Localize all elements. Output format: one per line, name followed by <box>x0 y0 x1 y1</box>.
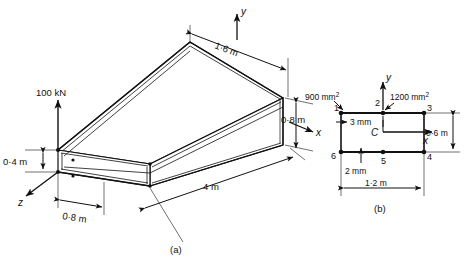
caption-a: (a) <box>170 244 182 255</box>
y-axis-label-a: y <box>240 6 247 17</box>
boom-4 <box>422 150 427 155</box>
dim-tip-width-label: 1·6 m <box>213 40 240 59</box>
dim-root-depth <box>25 150 58 172</box>
boom-6 <box>339 150 344 155</box>
boom-1 <box>339 111 344 116</box>
thickness-bottom-label: 2 mm <box>345 166 366 176</box>
thickness-top-label: 3 mm <box>350 117 371 127</box>
dim-section-height-label: 0·6 m <box>426 128 448 138</box>
panel-a-beam: 100 kN y x z 0·4 m <box>3 6 322 255</box>
dim-tip-depth-label: 0·8 m <box>281 114 305 125</box>
area-left-label: 900 mm2 <box>305 91 340 103</box>
dim-section-width-label: 1·2 m <box>365 178 387 188</box>
dim-root-width-label: 0·8 m <box>62 210 88 225</box>
boom-2 <box>381 111 386 116</box>
z-axis-arrow-a <box>26 172 58 196</box>
dim-length-label: 4 m <box>203 181 219 192</box>
panel-b-section: 1 2 3 4 5 6 900 mm2 1200 mm2 y <box>305 72 460 214</box>
boom-label-4: 4 <box>427 152 432 162</box>
x-axis-label-a: x <box>315 127 322 138</box>
load-label: 100 kN <box>36 87 66 98</box>
dim-root-depth-label: 0·4 m <box>3 156 27 167</box>
engineering-figure: 100 kN y x z 0·4 m <box>0 0 470 261</box>
dim-root-width <box>58 174 104 215</box>
area-right-label: 1200 mm2 <box>390 91 429 103</box>
y-axis-label-b: y <box>385 72 392 83</box>
caption-b: (b) <box>374 203 386 214</box>
boom-label-3: 3 <box>427 103 432 113</box>
boom-3 <box>422 111 427 116</box>
boom-5 <box>381 150 386 155</box>
boom-label-6: 6 <box>331 151 336 161</box>
boom-label-2: 2 <box>375 98 380 108</box>
z-axis-label-a: z <box>17 197 23 208</box>
boom-label-1: 1 <box>334 103 339 113</box>
boom-label-5: 5 <box>381 156 386 166</box>
centroid-label: C <box>371 127 379 138</box>
figure-svg: 100 kN y x z 0·4 m <box>0 0 470 261</box>
area-right-leader <box>385 103 394 110</box>
